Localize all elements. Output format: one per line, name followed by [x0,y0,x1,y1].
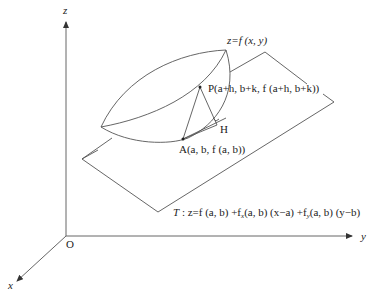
surface-label: z=f (x, y) [226,34,267,47]
point-H-label: H [220,123,228,135]
tangent-plane-diagram: z y x O z=f (x, y) P(a+h, b+k, f (a+h, b… [0,0,371,300]
z-axis-label: z [62,4,68,16]
right-angle-mark [213,118,219,121]
surface-patch [101,50,230,142]
point-P [199,86,202,89]
plane-back-edges [230,52,307,84]
point-A-label: A(a, b, f (a, b)) [179,143,246,156]
plane-equation-label: T : z=f (a, b) +fx(a, b) (x−a) +fy(a, b)… [173,206,361,220]
point-P-label: P(a+h, b+k, f (a+h, b+k)) [208,82,320,95]
surface-lower-curve [101,50,230,142]
origin-label: O [66,238,74,250]
plane-left-edge-visible [82,138,112,159]
x-axis-label: x [7,279,13,291]
x-axis [17,236,66,281]
y-axis-label: y [360,230,366,242]
point-A [182,138,185,141]
